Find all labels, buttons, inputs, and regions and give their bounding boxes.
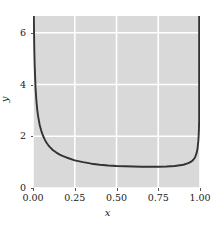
x-tick-mark: [200, 188, 201, 191]
chart-figure: 0246 0.000.250.500.751.00 y x: [0, 0, 215, 228]
x-tick-mark: [33, 188, 34, 191]
x-axis-label: x: [0, 207, 215, 218]
x-tick-label: 0.25: [55, 193, 95, 203]
x-tick-label: 0.75: [138, 193, 178, 203]
x-tick-mark: [117, 188, 118, 191]
plot-area: [33, 16, 200, 188]
x-tick-mark: [75, 188, 76, 191]
x-tick-mark: [158, 188, 159, 191]
data-curve: [33, 16, 200, 188]
x-tick-label: 0.50: [97, 193, 137, 203]
x-axis-ticks: 0.000.250.500.751.00: [33, 188, 200, 206]
y-tick-label: 6: [10, 28, 26, 38]
x-tick-label: 0.00: [13, 193, 53, 203]
x-tick-label: 1.00: [180, 193, 215, 203]
y-tick-mark: [31, 136, 34, 137]
y-tick-label: 2: [10, 131, 26, 141]
y-tick-mark: [31, 85, 34, 86]
y-axis-label: y: [0, 97, 10, 103]
y-tick-label: 4: [10, 80, 26, 90]
y-tick-mark: [31, 33, 34, 34]
